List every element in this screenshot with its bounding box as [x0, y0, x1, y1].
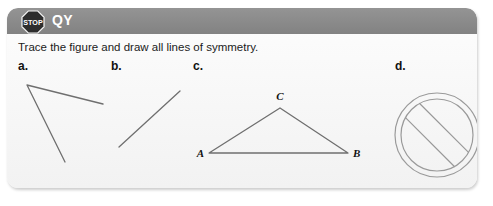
figures-area: A B C	[7, 8, 477, 188]
line-segment-figure	[119, 91, 180, 147]
vertex-label-b: B	[352, 147, 360, 159]
qy-problem-card: STOP QY Trace the figure and draw all li…	[7, 8, 477, 188]
open-angle-figure	[27, 85, 103, 162]
triangle-figure: A B C	[196, 90, 361, 159]
screenshot-stage: STOP QY Trace the figure and draw all li…	[0, 0, 493, 206]
vertex-label-c: C	[276, 90, 284, 102]
prohibition-sign-figure	[395, 93, 477, 177]
vertex-label-a: A	[196, 147, 204, 159]
